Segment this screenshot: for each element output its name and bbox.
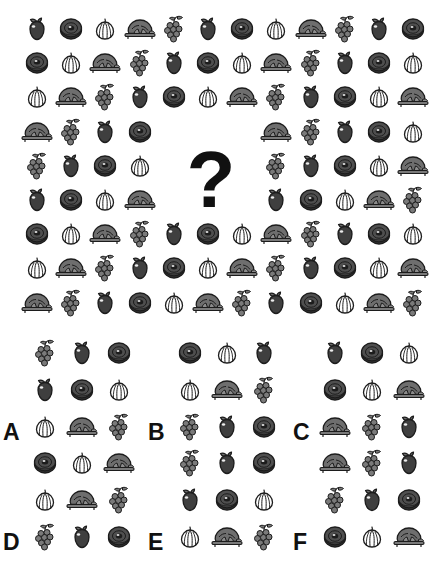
- option-cell-donut: [316, 518, 353, 555]
- matrix-cell-garlic: [225, 46, 259, 80]
- matrix-cell-turkey: [225, 80, 259, 114]
- option-cell-grapes: [100, 481, 137, 518]
- option-cell-garlic: [63, 444, 100, 481]
- option-cell-garlic: [26, 481, 63, 518]
- option-cell-apple: [390, 444, 427, 481]
- option-cell-apple: [245, 334, 282, 371]
- matrix-cell-donut: [328, 251, 362, 285]
- matrix-cell-garlic: [20, 80, 54, 114]
- matrix-cell-garlic: [191, 251, 225, 285]
- matrix-cell-donut: [294, 286, 328, 320]
- option-cell-garlic: [390, 334, 427, 371]
- option-cell-apple: [171, 481, 208, 518]
- matrix-cell-donut: [20, 217, 54, 251]
- matrix-cell-turkey: [88, 46, 122, 80]
- option-cell-donut: [390, 481, 427, 518]
- option-grid: [171, 444, 282, 555]
- matrix-cell-donut: [396, 12, 430, 46]
- option-cell-turkey: [208, 371, 245, 408]
- matrix-cell-apple: [88, 286, 122, 320]
- matrix-cell-garlic: [396, 115, 430, 149]
- matrix-cell-turkey: [20, 286, 54, 320]
- matrix-cell-grapes: [259, 80, 293, 114]
- answer-options: ABCDEF: [0, 330, 436, 571]
- option-d[interactable]: D: [0, 440, 145, 560]
- option-grid: [171, 334, 282, 445]
- matrix-cell-turkey: [362, 286, 396, 320]
- matrix-cell-garlic: [328, 286, 362, 320]
- option-cell-donut: [26, 444, 63, 481]
- option-grid: [316, 444, 427, 555]
- matrix-cell-garlic: [88, 12, 122, 46]
- matrix-cell-grapes: [123, 46, 157, 80]
- matrix-cell-turkey: [123, 183, 157, 217]
- option-e[interactable]: E: [145, 440, 290, 560]
- matrix-cell-garlic: [123, 149, 157, 183]
- matrix-cell-donut: [328, 80, 362, 114]
- option-letter-f: F: [293, 531, 307, 554]
- matrix-cell-turkey: [396, 251, 430, 285]
- matrix-cell-grapes: [54, 115, 88, 149]
- option-b[interactable]: B: [145, 330, 290, 450]
- option-grid: [26, 444, 137, 555]
- matrix-cell-turkey: [54, 251, 88, 285]
- matrix-cell-apple: [362, 12, 396, 46]
- matrix-cell-turkey: [225, 251, 259, 285]
- matrix-cell-apple: [54, 149, 88, 183]
- question-mark: ?: [176, 140, 246, 220]
- matrix-cell-garlic: [362, 251, 396, 285]
- matrix-cell-turkey: [54, 80, 88, 114]
- option-cell-turkey: [390, 518, 427, 555]
- option-cell-grapes: [171, 444, 208, 481]
- matrix-cell-apple: [157, 46, 191, 80]
- matrix-cell-turkey: [191, 286, 225, 320]
- matrix-cell-apple: [259, 183, 293, 217]
- matrix-cell-apple: [20, 183, 54, 217]
- option-cell-grapes: [316, 481, 353, 518]
- matrix-cell-garlic: [259, 12, 293, 46]
- option-c[interactable]: C: [290, 330, 435, 450]
- matrix-cell-apple: [191, 12, 225, 46]
- option-cell-turkey: [316, 444, 353, 481]
- matrix-cell-apple: [20, 12, 54, 46]
- matrix-cell-grapes: [396, 183, 430, 217]
- option-cell-apple: [316, 334, 353, 371]
- matrix-cell-donut: [88, 149, 122, 183]
- matrix-cell-apple: [157, 217, 191, 251]
- matrix-cell-donut: [157, 80, 191, 114]
- option-cell-apple: [63, 518, 100, 555]
- matrix-cell-grapes: [294, 217, 328, 251]
- matrix-cell-apple: [294, 80, 328, 114]
- option-cell-garlic: [171, 371, 208, 408]
- matrix-cell-grapes: [20, 149, 54, 183]
- option-cell-garlic: [353, 518, 390, 555]
- option-cell-donut: [100, 334, 137, 371]
- option-cell-apple: [63, 334, 100, 371]
- option-cell-grapes: [353, 444, 390, 481]
- matrix-cell-apple: [259, 286, 293, 320]
- option-cell-turkey: [208, 518, 245, 555]
- option-cell-grapes: [26, 518, 63, 555]
- option-cell-apple: [26, 371, 63, 408]
- option-cell-garlic: [208, 334, 245, 371]
- option-cell-donut: [63, 371, 100, 408]
- matrix-cell-apple: [123, 80, 157, 114]
- matrix-cell-donut: [123, 286, 157, 320]
- matrix-cell-grapes: [259, 149, 293, 183]
- option-a[interactable]: A: [0, 330, 145, 450]
- matrix-cell-grapes: [328, 12, 362, 46]
- matrix-cell-donut: [157, 251, 191, 285]
- option-cell-garlic: [171, 518, 208, 555]
- matrix-cell-donut: [362, 46, 396, 80]
- matrix-cell-garlic: [191, 80, 225, 114]
- option-cell-donut: [171, 334, 208, 371]
- matrix-cell-donut: [328, 149, 362, 183]
- matrix-cell-grapes: [396, 286, 430, 320]
- matrix-cell-garlic: [362, 80, 396, 114]
- matrix-cell-apple: [294, 149, 328, 183]
- matrix-cell-grapes: [294, 46, 328, 80]
- option-letter-d: D: [3, 531, 20, 554]
- pattern-matrix: ?: [0, 0, 436, 322]
- option-cell-turkey: [63, 481, 100, 518]
- option-f[interactable]: F: [290, 440, 435, 560]
